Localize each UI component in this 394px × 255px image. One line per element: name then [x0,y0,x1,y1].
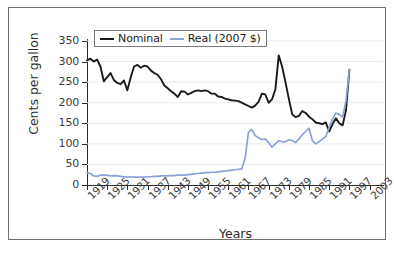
y-tick-label-wrap: 50 [51,158,79,169]
y-tick-label-wrap: 200 [51,97,79,108]
legend-entry: Real (2007 $) [170,32,261,45]
y-tick-label-wrap: 150 [51,117,79,128]
data-series [87,55,349,177]
y-tick-label-wrap: 250 [51,76,79,87]
legend-swatch [100,38,114,40]
x-axis-title: Years [87,226,384,241]
y-tick-label: 350 [53,35,79,46]
y-tick-label-wrap: 100 [51,138,79,149]
y-tick-label: 250 [53,76,79,87]
y-tick-label: 300 [53,56,79,67]
legend-swatch [170,38,184,40]
y-tick-label: 0 [53,179,79,190]
legend-entry: Nominal [100,32,163,45]
y-tick-label: 150 [53,117,79,128]
chart-figure: Cents per gallon 050100150200250300350 1… [0,0,394,255]
y-tick-label-wrap: 350 [51,35,79,46]
chart-legend: NominalReal (2007 $) [94,30,267,47]
y-tick-label: 100 [53,138,79,149]
legend-label: Nominal [118,32,163,45]
y-tick-label: 50 [53,158,79,169]
chart-frame: Cents per gallon 050100150200250300350 1… [8,7,386,240]
series-line-nominal [87,55,349,131]
legend-label: Real (2007 $) [188,32,261,45]
gridlines [87,41,383,164]
series-canvas [87,41,383,185]
y-axis-title: Cents per gallon [26,24,41,144]
y-tick-label-wrap: 0 [51,179,79,190]
y-tick-label-wrap: 300 [51,56,79,67]
y-tick-label: 200 [53,97,79,108]
plot-area [87,41,383,185]
